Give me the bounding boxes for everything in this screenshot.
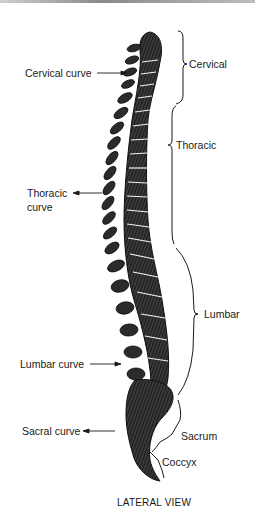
label-sacrum: Sacrum — [181, 430, 217, 442]
label-lumbar-curve: Lumbar curve — [20, 358, 84, 370]
label-cervical: Cervical — [189, 58, 227, 70]
caption-lateral-view: LATERAL VIEW — [117, 497, 191, 508]
label-sacral-curve: Sacral curve — [22, 425, 80, 437]
label-coccyx: Coccyx — [162, 456, 196, 468]
label-thoracic-curve-line2: curve — [27, 201, 53, 213]
label-lumbar: Lumbar — [204, 308, 240, 320]
label-thoracic: Thoracic — [176, 139, 216, 151]
label-thoracic-curve-line1: Thoracic — [27, 187, 67, 199]
label-cervical-curve: Cervical curve — [25, 67, 92, 79]
